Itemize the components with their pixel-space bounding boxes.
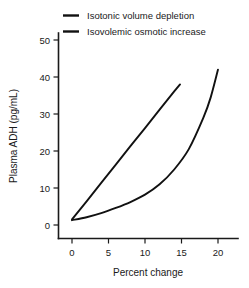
x-tick-label: 10 [140,247,151,258]
y-tick-label: 20 [39,146,50,157]
x-tick-label: 20 [213,247,224,258]
chart-figure: 0 10 20 30 40 50 0 5 10 15 20 Percent ch… [0,0,249,288]
y-tick-label: 10 [39,183,50,194]
y-tick-label: 30 [39,109,50,120]
series-line-isotonic-volume-depletion [72,84,180,219]
series-line-isovolemic-osmotic-increase [72,70,218,221]
plot-area: 0 10 20 30 40 50 0 5 10 15 20 Percent ch… [0,0,249,288]
legend-label: Isotonic volume depletion [87,10,194,21]
x-axis-title: Percent change [113,267,183,278]
x-tick-label: 0 [69,247,74,258]
y-tick-label: 40 [39,72,50,83]
y-tick-label: 0 [45,220,50,231]
legend-label: Isovolemic osmotic increase [87,26,206,37]
y-tick-label: 50 [39,35,50,46]
y-axis-title: Plasma ADH (pg/mL) [8,89,19,183]
x-tick-label: 5 [106,247,111,258]
x-tick-label: 15 [176,247,187,258]
chart-legend: Isotonic volume depletion Isovolemic osm… [63,10,206,37]
